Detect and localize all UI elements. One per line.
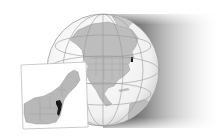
map-graphic <box>0 0 223 139</box>
locator-map <box>0 0 223 139</box>
inset-map <box>21 62 88 129</box>
